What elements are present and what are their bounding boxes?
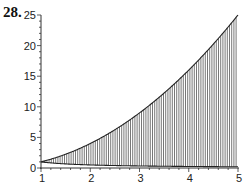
y-tick-label: 15 <box>24 70 36 82</box>
x-tick-label: 3 <box>137 172 143 183</box>
y-tick-label: 25 <box>24 9 36 21</box>
axes <box>37 15 239 172</box>
x-tick-label: 2 <box>88 172 94 183</box>
x-tick-label: 4 <box>187 172 193 183</box>
y-tick-label: 0 <box>30 162 36 174</box>
x-tick-label: 1 <box>39 172 45 183</box>
shaded-region <box>43 17 237 166</box>
region-plot: 051015202512345 <box>0 0 245 183</box>
y-tick-label: 5 <box>30 131 36 143</box>
y-tick-label: 20 <box>24 40 36 52</box>
y-tick-label: 10 <box>24 101 36 113</box>
x-tick-label: 5 <box>236 172 242 183</box>
